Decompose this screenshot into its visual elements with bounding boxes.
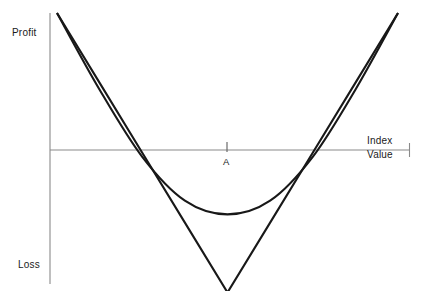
payoff-diagram-svg xyxy=(0,0,425,291)
x-axis-value-label: Value xyxy=(367,149,393,160)
y-axis-loss-label: Loss xyxy=(18,259,40,270)
point-a-label: A xyxy=(223,156,230,167)
current-payoff-curve xyxy=(57,13,398,214)
x-axis-index-label: Index xyxy=(367,135,392,146)
chart-canvas: Profit Loss Index Value A xyxy=(0,0,425,291)
y-axis-profit-label: Profit xyxy=(12,27,37,38)
